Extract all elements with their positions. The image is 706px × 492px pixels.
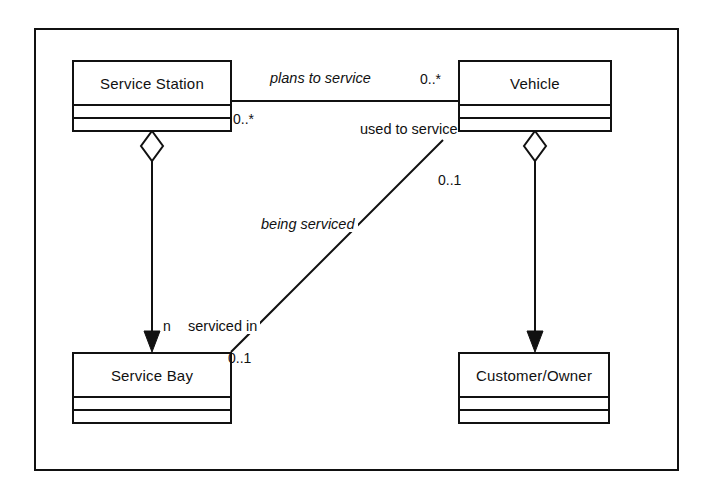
class-operations-customer-owner — [460, 411, 608, 424]
class-attributes-customer-owner — [460, 398, 608, 411]
class-operations-service-station — [74, 119, 230, 132]
class-attributes-service-station — [74, 106, 230, 119]
multiplicity-bay-right: 0..1 — [228, 350, 251, 366]
association-label-serviced-in: serviced in — [185, 318, 260, 334]
class-box-service-station[interactable]: Service Station — [72, 60, 232, 132]
class-operations-service-bay — [74, 411, 230, 424]
association-label-being-serviced: being serviced — [258, 216, 358, 232]
uml-class-diagram-canvas: Service Station Vehicle Service Bay Cust… — [0, 0, 706, 492]
multiplicity-vehicle-left: 0..* — [420, 71, 441, 87]
multiplicity-bay-n: n — [163, 318, 171, 334]
class-name-customer-owner: Customer/Owner — [460, 354, 608, 398]
class-box-vehicle[interactable]: Vehicle — [458, 60, 612, 132]
aggregation-arrowhead-customer — [527, 331, 543, 352]
multiplicity-vehicle-down: 0..1 — [438, 172, 461, 188]
aggregation-diamond-vehicle — [524, 131, 546, 161]
class-operations-vehicle — [460, 119, 610, 132]
class-box-service-bay[interactable]: Service Bay — [72, 352, 232, 424]
association-label-plans-to-service: plans to service — [270, 70, 371, 86]
association-line-being-serviced — [231, 140, 443, 352]
class-attributes-vehicle — [460, 106, 610, 119]
multiplicity-station-right: 0..* — [233, 111, 254, 127]
class-attributes-service-bay — [74, 398, 230, 411]
association-label-used-to-service: used to service — [360, 121, 458, 137]
class-name-vehicle: Vehicle — [460, 62, 610, 106]
class-box-customer-owner[interactable]: Customer/Owner — [458, 352, 610, 424]
aggregation-diamond-station — [141, 131, 163, 161]
aggregation-arrowhead-bay — [144, 331, 160, 352]
class-name-service-bay: Service Bay — [74, 354, 230, 398]
class-name-service-station: Service Station — [74, 62, 230, 106]
